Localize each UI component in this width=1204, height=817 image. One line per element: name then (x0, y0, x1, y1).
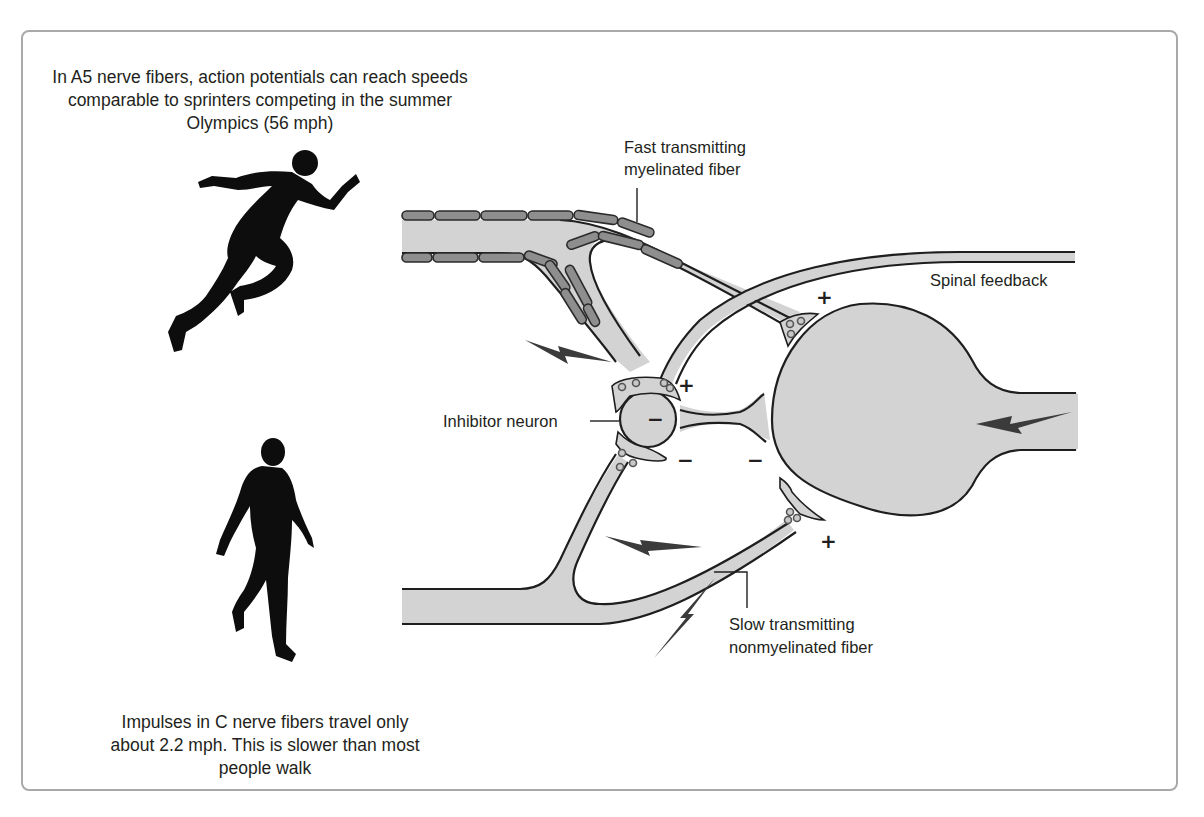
walker-silhouette-icon (216, 438, 314, 662)
sprinter-silhouette-icon (168, 150, 360, 352)
slow-fiber-label-line1: Slow transmitting (729, 613, 855, 635)
sign-inhibitor-output: − (747, 448, 764, 472)
fast-fiber-label-line1: Fast transmitting (624, 136, 746, 158)
nonmyelinated-fiber (402, 454, 796, 624)
sign-inhibitor-soma: − (647, 407, 664, 431)
spinal-feedback-label: Spinal feedback (930, 269, 1047, 291)
impulse-bolt-icon (525, 340, 612, 364)
sign-top-synapse: + (816, 285, 833, 309)
sign-bottom-synapse: + (820, 529, 837, 553)
slow-fiber-label-line2: nonmyelinated fiber (729, 636, 873, 658)
inhibitor-neuron-label: Inhibitor neuron (443, 410, 558, 432)
myelinated-fiber (402, 210, 800, 372)
fast-fiber-label-line2: myelinated fiber (624, 158, 740, 180)
motor-neuron (772, 303, 1078, 515)
sign-inhibitor-lower: − (677, 448, 694, 472)
inhibitor-axon (680, 392, 770, 442)
impulse-bolt-icon (605, 536, 702, 556)
sign-inhibitor-input: + (678, 373, 695, 397)
